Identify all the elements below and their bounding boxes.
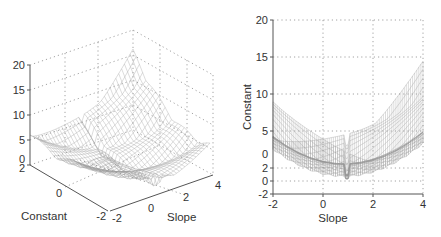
left-constant-axis xyxy=(30,165,108,211)
left-slope-tick-neg2: -2 xyxy=(112,212,122,224)
right-y-tick-0b: 0 xyxy=(262,175,268,187)
right-surface-mesh xyxy=(273,61,423,179)
right-2d-plot: 20 15 10 5 0 2 0 -2 -2 0 2 4 Slope Const… xyxy=(241,14,426,224)
left-z-tick-5: 5 xyxy=(19,134,25,146)
right-constant-label: Constant xyxy=(241,83,253,130)
left-slope-label: Slope xyxy=(167,211,196,223)
right-x-tick-neg2: -2 xyxy=(268,198,278,210)
left-3d-plot: 20 15 10 5 0 2 0 -2 -2 0 2 4 Constant Sl… xyxy=(13,30,221,224)
right-x-tick-4: 4 xyxy=(420,198,426,210)
right-y-tick-5: 5 xyxy=(262,125,268,137)
right-y-tick-2: 2 xyxy=(262,162,268,174)
left-slope-axis xyxy=(110,175,213,211)
right-y-tick-15: 15 xyxy=(256,51,268,63)
right-y-tick-neg2: -2 xyxy=(258,188,268,200)
left-surface-mesh xyxy=(30,49,210,186)
right-y-tick-10: 10 xyxy=(256,88,268,100)
left-z-tick-15: 15 xyxy=(13,84,25,96)
left-slope-tick-2: 2 xyxy=(183,191,189,203)
right-y-tick-20: 20 xyxy=(256,14,268,26)
left-z-tick-10: 10 xyxy=(13,109,25,121)
left-constant-tick-neg2: -2 xyxy=(96,210,106,222)
figure: 20 15 10 5 0 2 0 -2 -2 0 2 4 Constant Sl… xyxy=(0,0,441,237)
left-constant-tick-0: 0 xyxy=(56,187,62,199)
left-constant-tick-2: 2 xyxy=(19,162,25,174)
left-slope-tick-4: 4 xyxy=(215,179,221,191)
right-x-tick-2: 2 xyxy=(370,198,376,210)
right-slope-label: Slope xyxy=(318,212,347,224)
right-y-tick-0a: 0 xyxy=(262,148,268,160)
left-z-tick-20: 20 xyxy=(13,59,25,71)
left-slope-tick-0: 0 xyxy=(148,202,154,214)
right-x-tick-0: 0 xyxy=(320,198,326,210)
left-constant-label: Constant xyxy=(21,210,68,222)
